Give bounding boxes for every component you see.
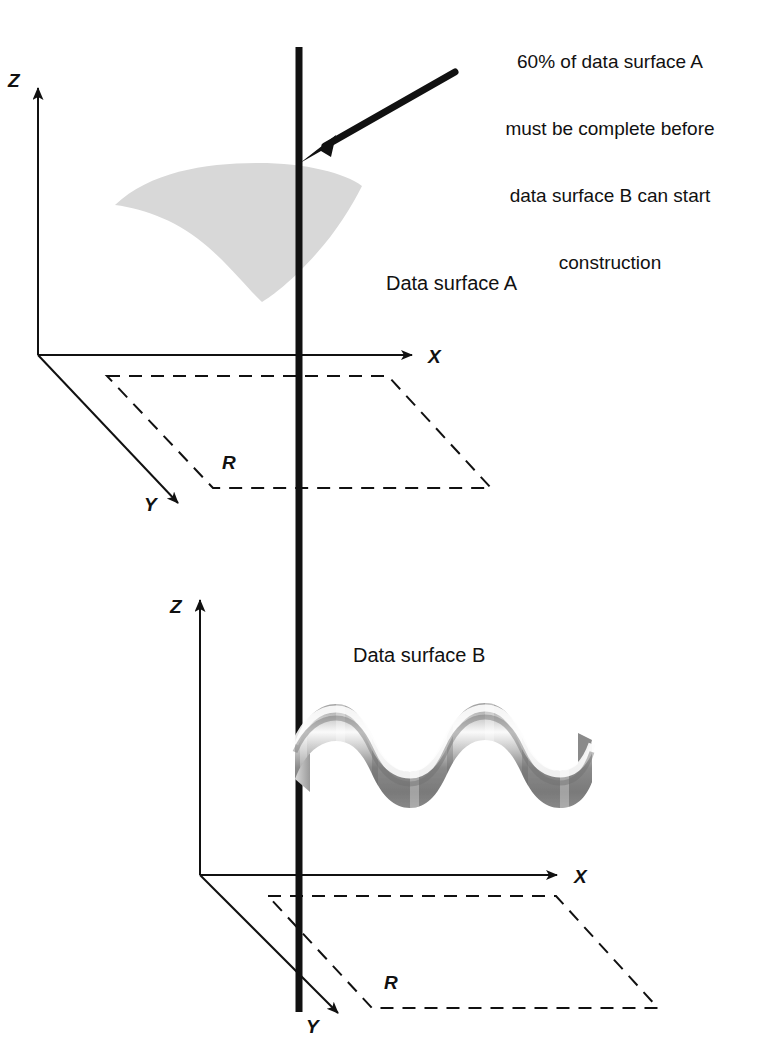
bottom-region-r-label: R — [384, 972, 398, 994]
top-z-axis-label: Z — [8, 70, 20, 92]
callout-arrow — [300, 72, 455, 163]
callout-line-1: 60% of data surface A — [468, 51, 752, 73]
callout-line-3: data surface B can start — [468, 185, 752, 207]
top-x-axis-label: X — [428, 346, 441, 368]
bottom-y-axis-label: Y — [306, 1016, 319, 1038]
bottom-z-axis-label: Z — [170, 596, 182, 618]
data-surface-b-label: Data surface B — [353, 644, 485, 668]
data-surface-a-shape — [115, 163, 362, 302]
data-surface-a-label: Data surface A — [386, 272, 517, 296]
top-region-r-label: R — [222, 452, 236, 474]
data-surface-b-shape — [290, 696, 600, 816]
bottom-region-r-outline — [268, 896, 658, 1008]
top-coordinate-system — [38, 88, 412, 503]
figure-canvas: 60% of data surface A must be complete b… — [0, 0, 757, 1063]
top-y-axis-label: Y — [144, 494, 157, 516]
bottom-x-axis-label: X — [574, 866, 587, 888]
callout-line-2: must be complete before — [468, 118, 752, 140]
